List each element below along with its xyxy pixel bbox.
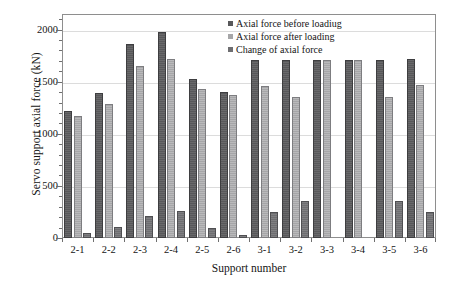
- legend-item-label: Axial force after loading: [236, 31, 335, 42]
- bar: [395, 201, 403, 238]
- legend-item: Axial force before loadiug: [228, 17, 342, 29]
- x-axis-tick: [405, 238, 406, 242]
- legend-swatch-icon: [228, 47, 233, 52]
- x-axis-title: Support number: [62, 262, 436, 274]
- bar: [167, 59, 175, 238]
- legend-item: Change of axial force: [228, 43, 342, 55]
- bar: [301, 201, 309, 238]
- y-axis-tick-label: 1000: [22, 129, 58, 139]
- bar: [251, 60, 259, 238]
- bar: [313, 60, 321, 238]
- bar: [292, 97, 300, 238]
- chart-legend: Axial force before loadiug Axial force a…: [228, 17, 342, 56]
- x-axis-tick: [156, 238, 157, 242]
- bar: [354, 60, 362, 238]
- x-axis-tick: [311, 238, 312, 242]
- bar: [229, 95, 237, 238]
- x-axis-tick: [93, 238, 94, 242]
- bar-group: [64, 14, 91, 238]
- bar-group: [126, 14, 153, 238]
- bar-group: [189, 14, 216, 238]
- legend-swatch-icon: [228, 34, 233, 39]
- y-axis-tick-label: 1500: [22, 77, 58, 87]
- x-axis-tick: [249, 238, 250, 242]
- bar: [261, 86, 269, 238]
- bar-group: [376, 14, 403, 238]
- bar-group: [158, 14, 185, 238]
- bar: [114, 227, 122, 238]
- y-axis-tick-label: 2000: [22, 25, 58, 35]
- bar-group: [95, 14, 122, 238]
- bar: [208, 228, 216, 238]
- x-axis-tick-labels: 2-12-22-32-42-52-63-13-23-33-43-53-6: [62, 244, 436, 260]
- bar: [74, 116, 82, 238]
- legend-item-label: Change of axial force: [236, 44, 322, 55]
- y-axis-tick-labels: 0500100015002000: [22, 14, 58, 238]
- bar: [220, 92, 228, 238]
- bar: [126, 44, 134, 238]
- x-axis-tick: [374, 238, 375, 242]
- bar: [416, 85, 424, 238]
- x-axis-tick: [187, 238, 188, 242]
- bar-chart-figure: Servo support axial force (kN) 050010001…: [0, 0, 456, 290]
- legend-item: Axial force after loading: [228, 30, 342, 42]
- bar: [407, 59, 415, 238]
- bar: [105, 104, 113, 238]
- legend-item-label: Axial force before loadiug: [236, 18, 342, 29]
- bar-group: [345, 14, 372, 238]
- bar: [64, 111, 72, 238]
- bar: [270, 212, 278, 238]
- y-axis-tick-label: 0: [22, 233, 58, 243]
- bar: [95, 93, 103, 238]
- legend-swatch-icon: [228, 21, 233, 26]
- bar: [323, 60, 331, 238]
- bar: [345, 60, 353, 238]
- bar: [385, 97, 393, 238]
- x-axis-tick: [218, 238, 219, 242]
- x-axis-tick: [280, 238, 281, 242]
- bar: [177, 211, 185, 238]
- bar: [282, 60, 290, 238]
- bar: [426, 212, 434, 238]
- x-axis-tick: [343, 238, 344, 242]
- x-axis-tick: [62, 238, 63, 242]
- bar: [158, 32, 166, 238]
- bar: [136, 66, 144, 238]
- bar: [145, 216, 153, 238]
- x-axis-tick: [124, 238, 125, 242]
- bar: [376, 60, 384, 238]
- y-axis-tick-label: 500: [22, 181, 58, 191]
- bar-group: [407, 14, 434, 238]
- bar: [189, 79, 197, 238]
- bar: [198, 89, 206, 239]
- x-axis-tick: [435, 238, 436, 242]
- x-axis-tick-label: 3-6: [400, 244, 440, 255]
